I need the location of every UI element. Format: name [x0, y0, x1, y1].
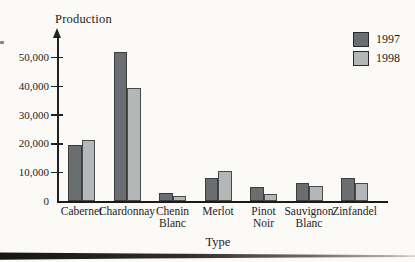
legend-label-1997: 1997 [376, 32, 400, 47]
bar-1998-chardonnay [127, 88, 141, 202]
bar-1997-pinot-noir [250, 187, 264, 201]
legend-swatch-1997 [353, 32, 369, 47]
y-axis-line [57, 37, 59, 202]
bar-1997-sauvignon-blanc [296, 183, 310, 202]
bar-1997-merlot [205, 178, 219, 201]
y-axis-tick [51, 172, 63, 173]
x-category-label: Blanc [264, 217, 354, 229]
legend-label-1998: 1998 [376, 51, 400, 66]
bar-1998-pinot-noir [264, 194, 278, 201]
y-axis-title: Production [55, 12, 112, 27]
y-tick-label: 50,000 [0, 51, 49, 63]
bar-1998-sauvignon-blanc [309, 186, 323, 202]
x-axis-title: Type [189, 235, 247, 250]
y-axis-tick [51, 114, 63, 115]
bar-1997-cabernet [68, 145, 82, 201]
bar-1997-chardonnay [114, 52, 128, 202]
x-category-label: Blanc [128, 217, 218, 229]
bar-1997-chenin-blanc [159, 193, 173, 202]
bar-1998-cabernet [82, 140, 96, 202]
y-tick-label: 10,000 [0, 166, 49, 178]
y-tick-label: 40,000 [0, 80, 49, 92]
page-edge-shadow [0, 250, 415, 262]
y-axis-tick [51, 86, 63, 87]
legend-swatch-1998 [353, 51, 369, 66]
bar-chart-figure: Production 010,00020,00030,00040,00050,0… [0, 0, 415, 262]
bar-1997-zinfandel [341, 178, 355, 201]
y-tick-label: 20,000 [0, 137, 49, 149]
bar-1998-zinfandel [355, 183, 369, 202]
y-axis-tick [51, 57, 63, 58]
scan-artifact-mark [0, 41, 4, 44]
y-tick-label: 30,000 [0, 109, 49, 121]
x-category-label: Zinfandel [310, 205, 400, 217]
y-axis-tick [51, 143, 63, 144]
bar-1998-chenin-blanc [173, 196, 187, 202]
bar-1998-merlot [218, 171, 232, 201]
